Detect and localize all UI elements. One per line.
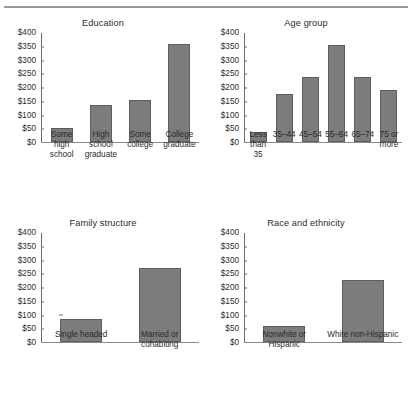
chart-title-family-structure: Family structure: [3, 218, 203, 228]
axes-age-group: $0$50$100$150$200$250$300$350$400: [244, 33, 402, 143]
y-tick-label: $300: [18, 256, 41, 264]
bar-slot: [81, 33, 120, 142]
x-tick-label: Single headed: [42, 330, 121, 350]
x-tick-label: Nonwhite orHispanic: [245, 330, 324, 350]
y-tick-label: $100: [18, 111, 41, 119]
x-tick-label: White non-Hispanic: [324, 330, 403, 350]
x-tick-label: Highschoolgraduate: [81, 130, 120, 161]
bar-slot: [42, 233, 121, 342]
x-tick-label: 55–64: [324, 130, 350, 161]
chart-title-age-group: Age group: [206, 18, 406, 28]
bar-group-race-ethnicity: [245, 233, 402, 342]
figure-canvas: Education $0$50$100$150$200$250$300$350$…: [0, 0, 411, 401]
y-tick-label: $200: [221, 84, 244, 92]
y-tick-label: $400: [221, 29, 244, 37]
y-tick-label: $250: [18, 270, 41, 278]
y-tick-label: $300: [18, 56, 41, 64]
y-tick-label: $100: [221, 111, 244, 119]
y-tick-label: $150: [221, 298, 244, 306]
x-tick-label: Somecollege: [121, 130, 160, 161]
bar-slot: [245, 233, 324, 342]
y-tick-label: $200: [221, 284, 244, 292]
chart-title-race-ethnicity: Race and ethnicity: [206, 218, 406, 228]
bar-slot: [271, 33, 297, 142]
y-tick-label: $250: [221, 70, 244, 78]
axes-education: $0$50$100$150$200$250$300$350$400: [41, 33, 199, 143]
x-tick-label: Collegegraduate: [160, 130, 199, 161]
bar-slot: [42, 33, 81, 142]
bar: [168, 44, 190, 142]
bar-slot: [160, 33, 199, 142]
x-tick-label: 65–74: [350, 130, 376, 161]
y-tick-label: $100: [18, 311, 41, 319]
chart-panel-race-ethnicity: Race and ethnicity $0$50$100$150$200$250…: [206, 218, 406, 398]
bar: [328, 45, 345, 142]
x-tick-label: 75 ormore: [376, 130, 402, 161]
y-tick-label: $0: [27, 339, 41, 347]
chart-panel-age-group: Age group $0$50$100$150$200$250$300$350$…: [206, 18, 406, 198]
y-tick-label: $100: [221, 311, 244, 319]
x-tick-label: Married orcohabiting: [121, 330, 200, 350]
chart-panel-family-structure: Family structure $0$50$100$150$200$250$3…: [3, 218, 203, 398]
axes-race-ethnicity: $0$50$100$150$200$250$300$350$400: [244, 233, 402, 343]
y-tick-label: $0: [27, 139, 41, 147]
y-tick-label: $400: [221, 229, 244, 237]
y-tick-label: $250: [18, 70, 41, 78]
scan-artifact-speck: [59, 314, 63, 316]
x-tick-label: Lessthan35: [245, 130, 271, 161]
y-tick-label: $50: [22, 325, 41, 333]
y-tick-label: $350: [18, 43, 41, 51]
bar-slot: [245, 33, 271, 142]
y-tick-label: $300: [221, 256, 244, 264]
y-tick-label: $200: [18, 284, 41, 292]
bar-slot: [324, 33, 350, 142]
chart-title-education: Education: [3, 18, 203, 28]
bar-group-education: [42, 33, 199, 142]
x-tick-label: 35–44: [271, 130, 297, 161]
y-tick-label: $150: [18, 98, 41, 106]
y-tick-label: $350: [18, 243, 41, 251]
y-tick-label: $150: [18, 298, 41, 306]
top-divider-rule: [4, 6, 408, 8]
bar-slot: [121, 33, 160, 142]
x-tick-labels-age-group: Lessthan3535–4445–5455–6465–7475 ormore: [245, 130, 402, 161]
x-tick-label: 45–54: [297, 130, 323, 161]
chart-panel-education: Education $0$50$100$150$200$250$300$350$…: [3, 18, 203, 198]
y-tick-label: $300: [221, 56, 244, 64]
y-tick-label: $150: [221, 98, 244, 106]
y-tick-label: $0: [230, 139, 244, 147]
y-tick-label: $0: [230, 339, 244, 347]
x-tick-labels-family-structure: Single headedMarried orcohabiting: [42, 330, 199, 350]
y-tick-label: $250: [221, 270, 244, 278]
x-tick-labels-education: SomehighschoolHighschoolgraduateSomecoll…: [42, 130, 199, 161]
bar-group-family-structure: [42, 233, 199, 342]
y-tick-label: $50: [22, 125, 41, 133]
y-tick-label: $350: [221, 43, 244, 51]
bar-slot: [121, 233, 200, 342]
axes-family-structure: $0$50$100$150$200$250$300$350$400: [41, 233, 199, 343]
y-tick-label: $400: [18, 229, 41, 237]
y-tick-label: $50: [225, 125, 244, 133]
x-tick-labels-race-ethnicity: Nonwhite orHispanicWhite non-Hispanic: [245, 330, 402, 350]
y-tick-label: $350: [221, 243, 244, 251]
y-tick-label: $200: [18, 84, 41, 92]
bar-slot: [376, 33, 402, 142]
bar-group-age-group: [245, 33, 402, 142]
y-tick-label: $400: [18, 29, 41, 37]
bar-slot: [297, 33, 323, 142]
bar-slot: [350, 33, 376, 142]
x-tick-label: Somehighschool: [42, 130, 81, 161]
y-tick-label: $50: [225, 325, 244, 333]
bar-slot: [324, 233, 403, 342]
